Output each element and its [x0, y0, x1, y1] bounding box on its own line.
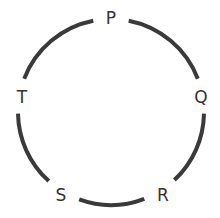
circle-diagram: P Q R S T	[0, 0, 220, 218]
arc-segment	[24, 21, 93, 79]
arc-segment	[129, 21, 198, 79]
circle-arcs	[0, 0, 220, 218]
label-q: Q	[194, 89, 207, 106]
arc-segment	[18, 114, 49, 182]
arc-segment	[79, 199, 144, 205]
label-r: R	[157, 187, 169, 204]
arc-segment	[174, 114, 204, 180]
label-t: T	[17, 89, 27, 106]
label-s: S	[56, 187, 67, 204]
label-p: P	[106, 10, 116, 27]
